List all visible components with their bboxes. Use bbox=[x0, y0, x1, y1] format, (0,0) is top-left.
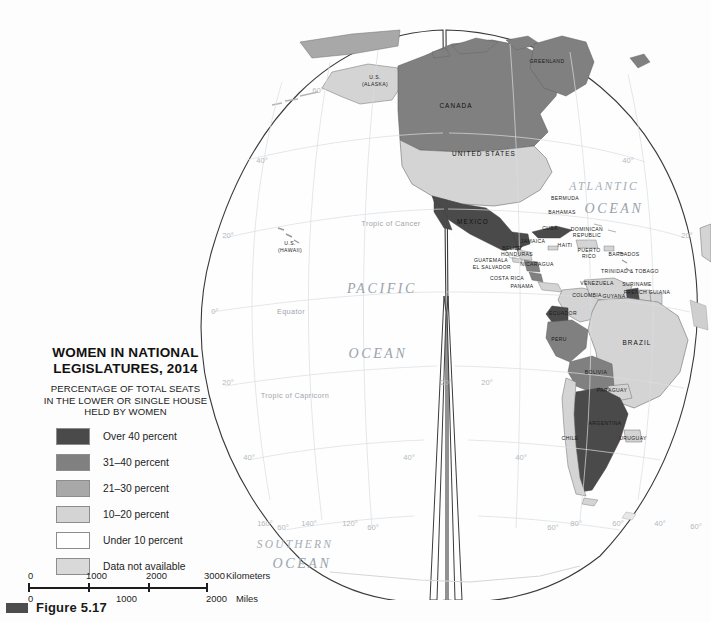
legend-item: 10–20 percent bbox=[56, 505, 233, 524]
legend-item-label: 10–20 percent bbox=[103, 509, 169, 520]
country-label: (ALASKA) bbox=[362, 81, 388, 87]
ocean-label: ATLANTIC bbox=[568, 180, 639, 192]
country-label: GUATEMALA bbox=[474, 257, 508, 263]
graticule-label: 40° bbox=[654, 519, 665, 528]
country-label: BAHAMAS bbox=[548, 209, 576, 215]
country-label: PANAMA bbox=[510, 283, 533, 289]
graticule-label: 0° bbox=[211, 307, 218, 316]
legend-subtitle-line-3: HELD BY WOMEN bbox=[18, 406, 233, 418]
country-label: BERMUDA bbox=[551, 195, 579, 201]
legend-item: Over 40 percent bbox=[56, 427, 233, 446]
country-label: BARBADOS bbox=[608, 251, 639, 257]
graticule-label: 40° bbox=[403, 453, 414, 462]
graticule-label: 60° bbox=[367, 523, 378, 532]
country-label: BOLIVIA bbox=[585, 369, 608, 375]
ocean-label: OCEAN bbox=[349, 346, 408, 361]
country-label: NICARAGUA bbox=[520, 261, 554, 267]
graticule-label: 120° bbox=[342, 519, 358, 528]
country-shape-jamaica bbox=[548, 246, 558, 250]
legend-title-line-1: WOMEN IN NATIONAL bbox=[18, 345, 233, 361]
graticule-label: 60° bbox=[690, 522, 701, 531]
country-label: PARAGUAY bbox=[597, 387, 628, 393]
graticule-label: 20° bbox=[440, 378, 451, 387]
country-label: UNITED STATES bbox=[452, 150, 516, 157]
graticule-label: 60° bbox=[312, 86, 323, 95]
legend-item-label: 21–30 percent bbox=[103, 483, 169, 494]
graticule-label: 20° bbox=[222, 231, 233, 240]
country-label: MEXICO bbox=[457, 218, 489, 225]
legend-subtitle-line-2: IN THE LOWER OR SINGLE HOUSE bbox=[18, 395, 233, 407]
graticule-label: 40° bbox=[515, 453, 526, 462]
country-label: U.S. bbox=[369, 74, 380, 80]
country-label: URUGUAY bbox=[619, 435, 647, 441]
country-label: ARGENTINA bbox=[589, 420, 622, 426]
graticule-label: 60° bbox=[547, 523, 558, 532]
legend-swatch bbox=[56, 532, 90, 549]
country-label: SURINAME bbox=[622, 281, 652, 287]
country-label: VENEZUELA bbox=[580, 280, 614, 286]
graticule-label: 40° bbox=[256, 156, 267, 165]
ocean-label: OCEAN bbox=[273, 556, 332, 571]
figure-caption: Figure 5.17 bbox=[6, 600, 107, 615]
legend-item: Under 10 percent bbox=[56, 531, 233, 550]
figure-container: GREENLANDU.S.(ALASKA)CANADAUNITED STATES… bbox=[0, 0, 711, 622]
graticule-label: 20° bbox=[681, 231, 692, 240]
graticule-label: 140° bbox=[301, 519, 317, 528]
country-label: U.S. bbox=[284, 240, 295, 246]
scale-tick-label: 3000 bbox=[204, 570, 225, 581]
country-label: CUBA bbox=[542, 225, 558, 231]
graticule-label: 160° bbox=[257, 519, 273, 528]
scale-tick-label: 0 bbox=[28, 570, 33, 581]
graticule-label: 60° bbox=[277, 523, 288, 532]
country-label: BRAZIL bbox=[623, 339, 652, 346]
legend-subtitle-line-1: PERCENTAGE OF TOTAL SEATS bbox=[18, 383, 233, 395]
country-label: HAITI bbox=[558, 242, 573, 248]
map-legend: WOMEN IN NATIONAL LEGISLATURES, 2014 PER… bbox=[18, 345, 233, 583]
scale-bar-graphic bbox=[28, 583, 278, 592]
ocean-label: OCEAN bbox=[585, 201, 644, 216]
country-label: FRENCH GUIANA bbox=[624, 289, 671, 295]
legend-title-line-2: LEGISLATURES, 2014 bbox=[18, 361, 233, 377]
legend-item: 31–40 percent bbox=[56, 453, 233, 472]
legend-item-list: Over 40 percent31–40 percent21–30 percen… bbox=[18, 427, 233, 576]
caption-label: Figure 5.17 bbox=[36, 600, 107, 615]
scale-unit-miles: Miles bbox=[236, 593, 258, 604]
country-label: GUYANA bbox=[602, 293, 625, 299]
graticule-label: 60° bbox=[612, 519, 623, 528]
legend-item-label: Over 40 percent bbox=[103, 431, 177, 442]
ocean-label: PACIFIC bbox=[346, 281, 417, 296]
graticule-label: 80° bbox=[570, 519, 581, 528]
country-label: JAMAICA bbox=[521, 238, 546, 244]
country-label: (HAWAII) bbox=[278, 247, 302, 253]
legend-swatch bbox=[56, 428, 90, 445]
scale-unit-kilometers: Kilometers bbox=[226, 570, 270, 581]
country-label: RICO bbox=[582, 253, 596, 259]
legend-swatch bbox=[56, 506, 90, 523]
graticule-label: 40° bbox=[243, 453, 254, 462]
country-label: REPUBLIC bbox=[573, 232, 601, 238]
caption-marker-icon bbox=[6, 603, 28, 613]
scale-tick-label: 1000 bbox=[116, 593, 137, 604]
scale-tick-label: 2000 bbox=[206, 593, 227, 604]
reference-line-label: Equator bbox=[277, 307, 305, 316]
country-label: GREENLAND bbox=[530, 58, 565, 64]
legend-item-label: 31–40 percent bbox=[103, 457, 169, 468]
ocean-label: SOUTHERN bbox=[257, 538, 333, 550]
country-label: COSTA RICA bbox=[490, 275, 524, 281]
scale-kilometers-labels: 0100020003000Kilometers bbox=[28, 570, 278, 582]
legend-item: 21–30 percent bbox=[56, 479, 233, 498]
legend-swatch bbox=[56, 454, 90, 471]
graticule-label: 20° bbox=[481, 378, 492, 387]
reference-line-label: Tropic of Cancer bbox=[361, 219, 420, 228]
legend-item-label: Under 10 percent bbox=[103, 535, 183, 546]
country-label: ECUADOR bbox=[549, 310, 577, 316]
reference-line-label: Tropic of Capricorn bbox=[261, 391, 329, 400]
country-label: EL SALVADOR bbox=[473, 264, 511, 270]
country-label: COLOMBIA bbox=[572, 292, 602, 298]
country-label: CHILE bbox=[562, 435, 579, 441]
scale-tick-label: 2000 bbox=[146, 570, 167, 581]
graticule-label: 40° bbox=[622, 156, 633, 165]
legend-swatch bbox=[56, 480, 90, 497]
country-label: TRINIDAD & TOBAGO bbox=[601, 268, 659, 274]
country-label: CANADA bbox=[439, 102, 472, 109]
